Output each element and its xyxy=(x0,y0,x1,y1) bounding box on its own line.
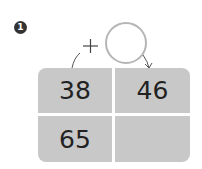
grid-cell: 65 xyxy=(38,116,112,162)
number-grid: 38 46 65 xyxy=(38,68,190,162)
grid-cell-blank[interactable] xyxy=(115,116,190,162)
grid-cell: 46 xyxy=(115,68,190,113)
grid-cell: 38 xyxy=(38,68,112,113)
answer-circle xyxy=(106,23,146,63)
